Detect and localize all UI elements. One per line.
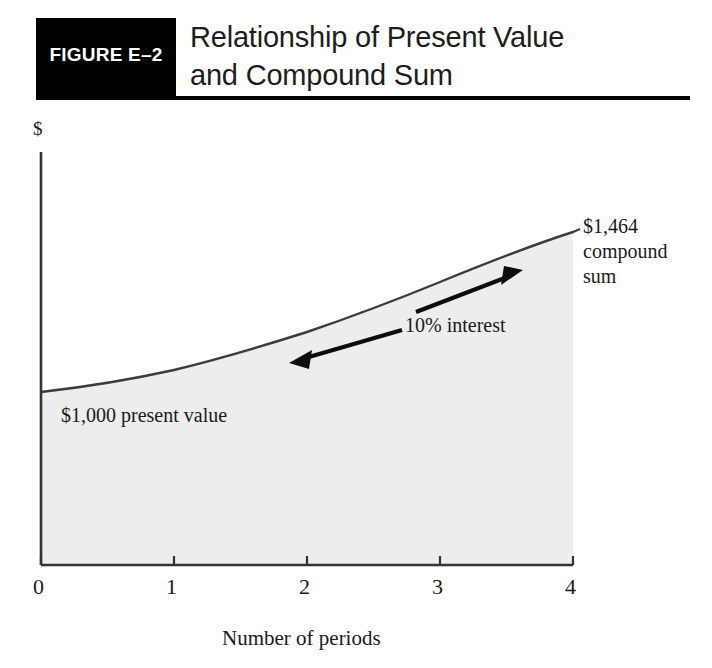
x-tick-label-4: 4 xyxy=(565,574,576,600)
compound-sum-word-compound: compound xyxy=(583,239,667,264)
figure-number-badge: FIGURE E–2 xyxy=(36,18,176,96)
interest-rate-annotation: 10% interest xyxy=(405,314,506,337)
present-value-annotation: $1,000 present value xyxy=(61,404,227,427)
chart-area: $ 0 1 2 3 4 Number of periods $1,000 pre… xyxy=(0,104,712,668)
x-tick-label-1: 1 xyxy=(166,574,177,600)
x-tick-label-2: 2 xyxy=(299,574,310,600)
figure-title-line-2: and Compound Sum xyxy=(190,56,690,94)
compound-sum-word-sum: sum xyxy=(583,264,667,289)
figure-header: FIGURE E–2 Relationship of Present Value… xyxy=(0,0,712,104)
compound-sum-annotation: $1,464 compound sum xyxy=(583,214,667,289)
figure-title: Relationship of Present Value and Compou… xyxy=(190,18,690,94)
header-divider-rule xyxy=(36,96,690,100)
compound-sum-area-chart xyxy=(0,104,712,668)
y-axis-unit-label: $ xyxy=(33,118,43,140)
x-tick-label-3: 3 xyxy=(432,574,443,600)
figure-number-label: FIGURE E–2 xyxy=(36,44,176,66)
compound-sum-amount: $1,464 xyxy=(583,214,667,239)
compound-sum-leader xyxy=(573,229,580,232)
x-axis-title: Number of periods xyxy=(222,626,381,651)
x-tick-label-0: 0 xyxy=(33,574,44,600)
figure-title-line-1: Relationship of Present Value xyxy=(190,18,690,56)
